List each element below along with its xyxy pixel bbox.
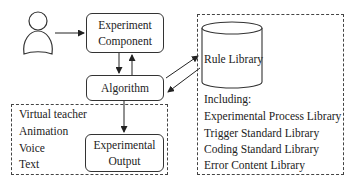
edge-rule-library-to-algorithm — [168, 68, 200, 92]
library-item-coding-standard: Coding Standard Library — [204, 143, 319, 156]
output-item-virtual-teacher: Virtual teacher — [19, 108, 87, 121]
output-item-voice: Voice — [19, 142, 45, 155]
library-item-trigger-standard: Trigger Standard Library — [204, 127, 319, 140]
experimental-output-label-line1: Experimental — [94, 137, 156, 153]
experiment-component-node: Experiment Component — [86, 13, 164, 53]
algorithm-node: Algorithm — [86, 75, 164, 101]
output-item-animation: Animation — [19, 125, 68, 138]
experiment-component-label-line2: Component — [98, 33, 152, 49]
experimental-output-node: Experimental Output — [85, 134, 164, 172]
library-item-error-content: Error Content Library — [204, 159, 305, 172]
library-item-experimental-process: Experimental Process Library — [204, 110, 341, 123]
rule-library-label: Rule Library — [204, 53, 263, 66]
output-item-text: Text — [19, 158, 39, 171]
algorithm-label: Algorithm — [101, 80, 149, 96]
edge-algorithm-to-rule-library — [166, 56, 198, 78]
person-icon — [24, 12, 53, 54]
experimental-output-label-line2: Output — [109, 153, 141, 169]
experiment-component-label-line1: Experiment — [98, 17, 152, 33]
library-heading: Including: — [204, 93, 251, 106]
